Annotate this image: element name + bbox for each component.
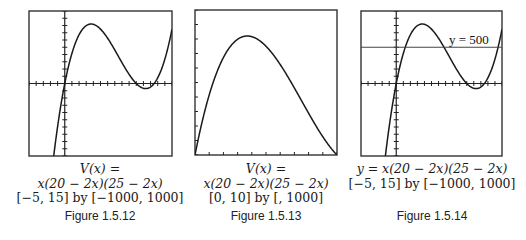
figure-label: Figure 1.5.12 (10, 209, 190, 223)
caption-function-formula: x(20 − 2x)(25 − 2x) (176, 177, 356, 192)
caption-function-formula: x(20 − 2x)(25 − 2x) (10, 177, 190, 192)
caption-function-name: V(x) = (10, 162, 190, 177)
plot-figure-1-5-12 (29, 11, 172, 156)
figure-label: Figure 1.5.13 (176, 209, 356, 223)
caption-function-name: V(x) = (176, 162, 356, 177)
cubic-curve-graph (195, 10, 337, 155)
figure-label: Figure 1.5.14 (342, 209, 522, 223)
function-curve (29, 24, 172, 240)
caption-figure-1-5-13: V(x) = x(20 − 2x)(25 − 2x) [0, 10] by [,… (176, 162, 356, 206)
plot-frame (195, 10, 337, 155)
plot-figure-1-5-13 (195, 10, 337, 155)
caption-function-formula: y = x(20 − 2x)(25 − 2x) (342, 162, 522, 177)
function-curve (195, 36, 337, 155)
function-curve (361, 24, 502, 240)
caption-window-range: [−5, 15] by [−1000, 1000] (10, 191, 190, 206)
caption-window-range: [−5, 15] by [−1000, 1000] (342, 177, 522, 192)
cubic-curve-graph (29, 11, 172, 156)
caption-figure-1-5-12: V(x) = x(20 − 2x)(25 − 2x) [−5, 15] by [… (10, 162, 190, 206)
caption-window-range: [0, 10] by [, 1000] (176, 191, 356, 206)
horizontal-line-label: y = 500 (448, 33, 490, 46)
caption-figure-1-5-14: y = x(20 − 2x)(25 − 2x) [−5, 15] by [−10… (342, 162, 522, 191)
